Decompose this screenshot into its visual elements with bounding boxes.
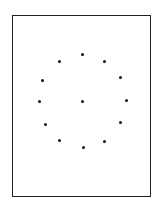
dot-left-lower bbox=[44, 123, 47, 126]
dot-lower-right bbox=[103, 140, 106, 143]
dot-lower-left bbox=[58, 139, 61, 142]
dot-right-lower bbox=[119, 121, 122, 124]
dot-right-upper bbox=[119, 76, 122, 79]
dot-right bbox=[125, 99, 128, 102]
dot-center bbox=[81, 100, 84, 103]
dot-upper-left bbox=[58, 60, 61, 63]
dot-bottom bbox=[82, 146, 85, 149]
dot-upper-right bbox=[103, 60, 106, 63]
dot-left-upper bbox=[41, 79, 44, 82]
dot-left bbox=[38, 100, 41, 103]
dot-top bbox=[81, 53, 84, 56]
figure-frame bbox=[12, 15, 151, 197]
